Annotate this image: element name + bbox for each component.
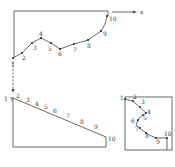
figure-svg: 1 2 3 4 5 6 7 8 9 10 x y 1 2 3 4 5 6 7 8…: [0, 0, 175, 167]
x-arrowhead-icon: [133, 11, 137, 14]
svg-text:2: 2: [16, 92, 20, 99]
small-labels: 1 2 3 4 5 6 7 8 9 10: [120, 93, 172, 145]
svg-text:4: 4: [147, 108, 151, 115]
svg-text:8: 8: [87, 42, 91, 49]
svg-text:6: 6: [58, 50, 62, 57]
svg-text:3: 3: [26, 96, 30, 103]
svg-text:2: 2: [22, 54, 26, 61]
svg-text:8: 8: [145, 132, 149, 139]
svg-text:9: 9: [156, 138, 160, 145]
top-labels: 1 2 3 4 5 6 7 8 9 10 x y: [9, 8, 144, 102]
svg-text:2: 2: [133, 93, 137, 100]
svg-text:1: 1: [11, 60, 15, 67]
svg-text:1: 1: [120, 94, 124, 101]
svg-text:7: 7: [135, 125, 139, 132]
svg-text:10: 10: [109, 15, 117, 22]
svg-text:3: 3: [141, 98, 145, 105]
y-arrowhead-icon: [12, 89, 15, 93]
svg-text:5: 5: [48, 45, 52, 52]
svg-text:1: 1: [4, 95, 8, 102]
svg-text:8: 8: [80, 118, 84, 125]
svg-text:4: 4: [39, 30, 43, 37]
bottom-figure: [13, 98, 106, 147]
svg-text:10: 10: [108, 135, 116, 142]
svg-text:3: 3: [33, 44, 37, 51]
svg-text:6: 6: [131, 117, 135, 124]
svg-text:x: x: [140, 8, 144, 15]
svg-text:5: 5: [44, 103, 48, 110]
svg-text:4: 4: [35, 100, 39, 107]
svg-text:9: 9: [94, 123, 98, 130]
svg-text:5: 5: [143, 114, 147, 121]
svg-text:7: 7: [66, 112, 70, 119]
svg-text:9: 9: [103, 30, 107, 37]
svg-text:6: 6: [53, 107, 57, 114]
svg-text:10: 10: [164, 130, 172, 137]
diagram-canvas: 1 2 3 4 5 6 7 8 9 10 x y 1 2 3 4 5 6 7 8…: [0, 0, 175, 167]
svg-text:7: 7: [73, 46, 77, 53]
